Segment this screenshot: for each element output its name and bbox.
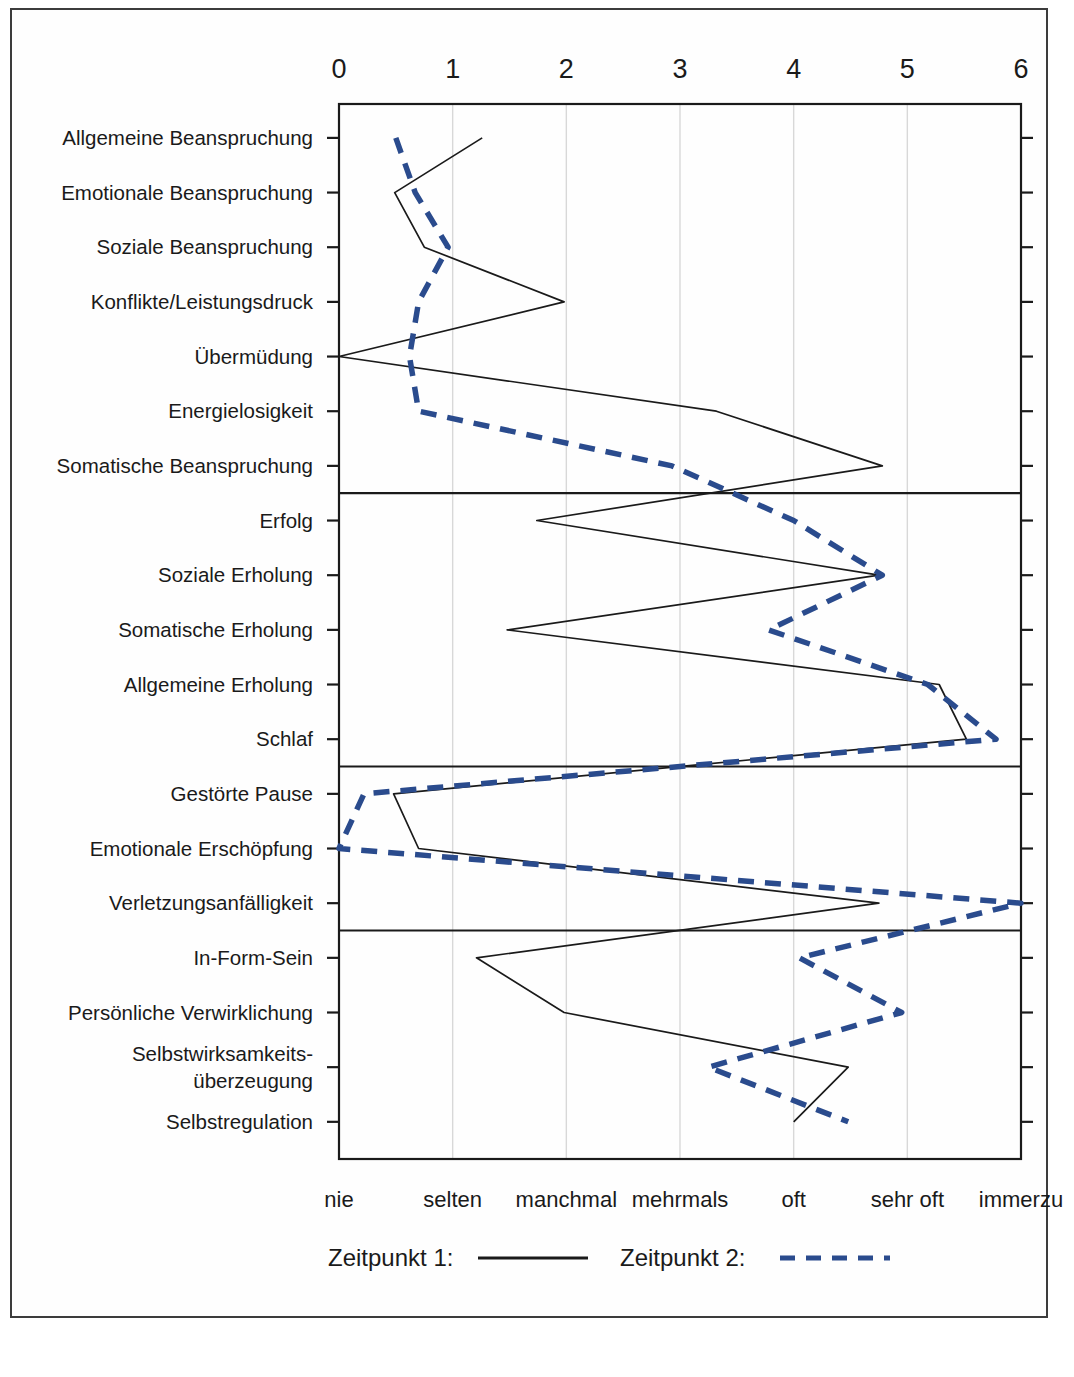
x-axis-anchor-label: nie	[324, 1187, 353, 1212]
category-label: Übermüdung	[194, 345, 313, 368]
figure-page: 0123456Allgemeine BeanspruchungEmotional…	[0, 0, 1074, 1377]
chart-canvas: 0123456Allgemeine BeanspruchungEmotional…	[0, 0, 1074, 1290]
category-label: Allgemeine Beanspruchung	[62, 126, 313, 149]
category-label: Erfolg	[259, 509, 313, 532]
series-line-1	[339, 138, 966, 1122]
category-label: In-Form-Sein	[193, 946, 313, 969]
category-label: Soziale Beanspruchung	[96, 235, 313, 258]
category-label: Konflikte/Leistungsdruck	[91, 290, 314, 313]
x-axis-anchor-label: sehr oft	[871, 1187, 944, 1212]
x-axis-anchor-label: oft	[781, 1187, 805, 1212]
x-axis-tick-label: 4	[786, 54, 801, 84]
x-axis-tick-label: 1	[445, 54, 460, 84]
category-label: Gestörte Pause	[171, 782, 313, 805]
category-label: Energielosigkeit	[168, 399, 313, 422]
category-label: Persönliche Verwirklichung	[68, 1001, 313, 1024]
x-axis-tick-label: 5	[900, 54, 915, 84]
x-axis-anchor-label: mehrmals	[632, 1187, 729, 1212]
category-label: Verletzungsanfälligkeit	[109, 891, 313, 914]
legend-label-1: Zeitpunkt 1:	[328, 1244, 453, 1271]
category-label: Selbstwirksamkeits-	[132, 1042, 313, 1065]
x-axis-tick-label: 3	[672, 54, 687, 84]
legend-label-2: Zeitpunkt 2:	[620, 1244, 745, 1271]
category-label: überzeugung	[193, 1069, 313, 1092]
category-label: Selbstregulation	[166, 1110, 313, 1133]
category-label: Emotionale Beanspruchung	[61, 181, 313, 204]
category-label: Somatische Erholung	[118, 618, 313, 641]
x-axis-tick-label: 0	[331, 54, 346, 84]
category-label: Schlaf	[256, 727, 313, 750]
x-axis-anchor-label: manchmal	[516, 1187, 617, 1212]
x-axis-anchor-label: selten	[423, 1187, 482, 1212]
category-label: Somatische Beanspruchung	[57, 454, 313, 477]
x-axis-tick-label: 2	[559, 54, 574, 84]
category-label: Soziale Erholung	[158, 563, 313, 586]
x-axis-tick-label: 6	[1013, 54, 1028, 84]
category-label: Emotionale Erschöpfung	[90, 837, 313, 860]
category-label: Allgemeine Erholung	[124, 673, 313, 696]
chart-figure: 0123456Allgemeine BeanspruchungEmotional…	[0, 0, 1074, 1290]
x-axis-anchor-label: immerzu	[979, 1187, 1063, 1212]
